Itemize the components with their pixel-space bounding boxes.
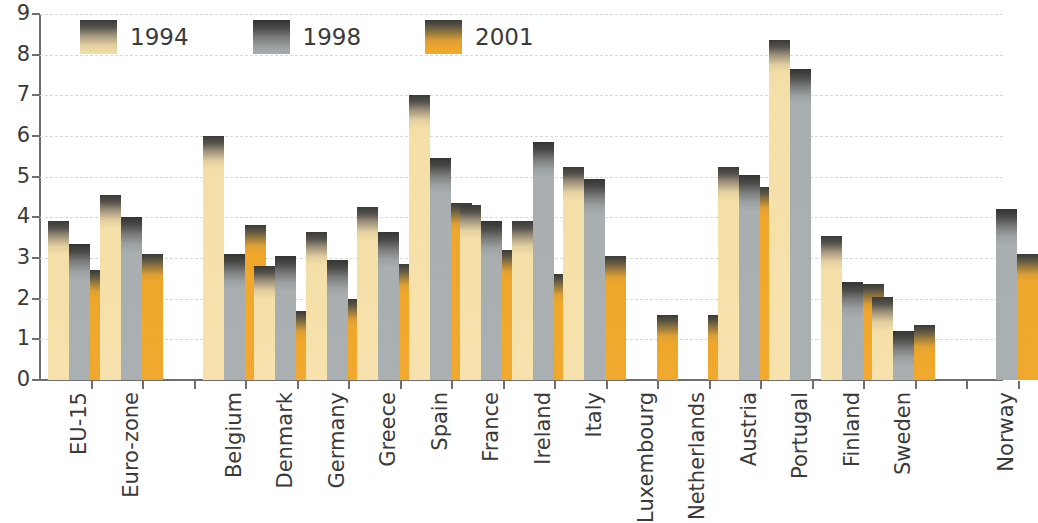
chart-legend: 1994 1998 2001	[80, 20, 534, 54]
bar-1998-Euro-zone	[121, 217, 142, 380]
bar-1994-Denmark	[254, 266, 275, 380]
x-category-label-portugal: Portugal	[790, 392, 811, 479]
x-tick-mark	[297, 381, 299, 389]
y-tick-label: 9	[0, 3, 30, 24]
legend-swatch-1998	[253, 20, 290, 54]
x-category-label-eu-15: EU-15	[69, 392, 90, 455]
y-tick-label: 5	[0, 166, 30, 187]
y-tick-label: 8	[0, 44, 30, 65]
x-category-label-finland: Finland	[842, 392, 863, 467]
x-tick-mark	[194, 381, 196, 389]
legend-label-2001: 2001	[475, 26, 534, 49]
y-tick-label: 4	[0, 206, 30, 227]
x-category-label-greece: Greece	[378, 392, 399, 467]
bar-2001-Sweden	[914, 325, 935, 380]
y-tick-label: 7	[0, 84, 30, 105]
bar-1994-Ireland	[512, 221, 533, 380]
x-tick-mark	[657, 381, 659, 389]
x-tick-mark	[503, 381, 505, 389]
x-tick-mark	[451, 381, 453, 389]
x-tick-mark	[142, 381, 144, 389]
bar-1994-France	[460, 205, 481, 380]
gridline	[40, 136, 1003, 137]
bar-1994-Germany	[306, 232, 327, 380]
gridline	[40, 177, 1003, 178]
bar-1998-Italy	[584, 179, 605, 380]
x-tick-mark	[709, 381, 711, 389]
legend-item-2001[interactable]: 2001	[425, 20, 534, 54]
y-tick-label: 3	[0, 247, 30, 268]
bar-1994-Italy	[563, 167, 584, 381]
bar-2001-Luxembourg	[657, 315, 678, 380]
bar-1998-Spain	[430, 158, 451, 380]
y-tick-label: 6	[0, 125, 30, 146]
x-category-label-belgium: Belgium	[224, 392, 245, 478]
gridline	[40, 95, 1003, 96]
x-category-label-ireland: Ireland	[533, 392, 554, 465]
x-tick-mark	[400, 381, 402, 389]
bar-1998-Sweden	[893, 331, 914, 380]
x-category-label-italy: Italy	[584, 392, 605, 438]
x-tick-mark	[554, 381, 556, 389]
bar-1994-Euro-zone	[100, 195, 121, 380]
bar-1994-EU-15	[48, 221, 69, 380]
x-tick-mark	[812, 381, 814, 389]
legend-item-1998[interactable]: 1998	[253, 20, 362, 54]
bar-1998-Finland	[842, 282, 863, 380]
y-tick-label: 1	[0, 328, 30, 349]
bar-1998-Ireland	[533, 142, 554, 380]
bar-1994-Finland	[821, 236, 842, 380]
gridline	[40, 55, 1003, 56]
bar-1994-Greece	[357, 207, 378, 380]
x-tick-mark	[606, 381, 608, 389]
x-tick-mark	[863, 381, 865, 389]
x-category-label-spain: Spain	[430, 392, 451, 451]
x-tick-mark	[966, 381, 968, 389]
x-category-label-denmark: Denmark	[275, 392, 296, 489]
bar-1998-Belgium	[224, 254, 245, 380]
bar-1998-Portugal	[790, 69, 811, 380]
x-category-label-france: France	[481, 392, 502, 462]
x-category-label-norway: Norway	[996, 392, 1017, 472]
bar-1994-Portugal	[769, 40, 790, 380]
bar-1994-Sweden	[872, 297, 893, 380]
bar-2001-Italy	[605, 256, 626, 380]
bar-1994-Austria	[718, 167, 739, 381]
bar-1998-Greece	[378, 232, 399, 380]
x-tick-mark	[915, 381, 917, 389]
bar-1998-Denmark	[275, 256, 296, 380]
legend-item-1994[interactable]: 1994	[80, 20, 189, 54]
plot-area	[40, 14, 1003, 380]
bar-1994-Belgium	[203, 136, 224, 380]
legend-label-1994: 1994	[130, 26, 189, 49]
x-tick-mark	[760, 381, 762, 389]
bar-1998-Norway	[996, 209, 1017, 380]
gridline	[40, 217, 1003, 218]
legend-swatch-1994	[80, 20, 117, 54]
x-category-label-netherlands: Netherlands	[687, 392, 708, 520]
bar-1998-France	[481, 221, 502, 380]
x-category-label-austria: Austria	[739, 392, 760, 466]
x-tick-mark	[348, 381, 350, 389]
x-category-label-sweden: Sweden	[893, 392, 914, 475]
bar-1994-Spain	[409, 95, 430, 380]
legend-swatch-2001	[425, 20, 462, 54]
x-category-label-luxembourg: Luxembourg	[636, 392, 657, 523]
x-category-label-euro-zone: Euro-zone	[121, 392, 142, 498]
bar-1998-Austria	[739, 175, 760, 380]
x-category-label-germany: Germany	[327, 392, 348, 489]
gridline	[40, 14, 1003, 15]
y-tick-label: 2	[0, 288, 30, 309]
x-tick-mark	[1018, 381, 1020, 389]
bar-2001-Euro-zone	[142, 254, 163, 380]
bar-1998-EU-15	[69, 244, 90, 380]
y-tick-label: 0	[0, 369, 30, 390]
legend-label-1998: 1998	[303, 26, 362, 49]
bar-1998-Germany	[327, 260, 348, 380]
bar-2001-Norway	[1017, 254, 1038, 380]
x-tick-mark	[91, 381, 93, 389]
x-tick-mark	[245, 381, 247, 389]
